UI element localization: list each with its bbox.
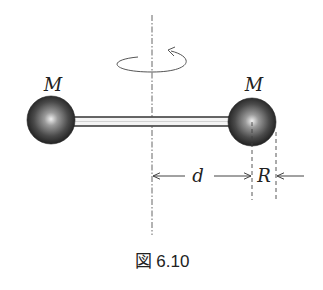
- left-sphere: [27, 96, 75, 144]
- figure-caption: 図 6.10: [135, 252, 190, 271]
- dumbbell-rotation-diagram: M M d R 図 6.10: [0, 0, 323, 290]
- right-mass-label: M: [244, 74, 264, 95]
- left-mass-label: M: [43, 74, 63, 95]
- distance-label: d: [192, 165, 204, 186]
- connecting-rod: [72, 117, 232, 126]
- radius-label: R: [256, 165, 271, 186]
